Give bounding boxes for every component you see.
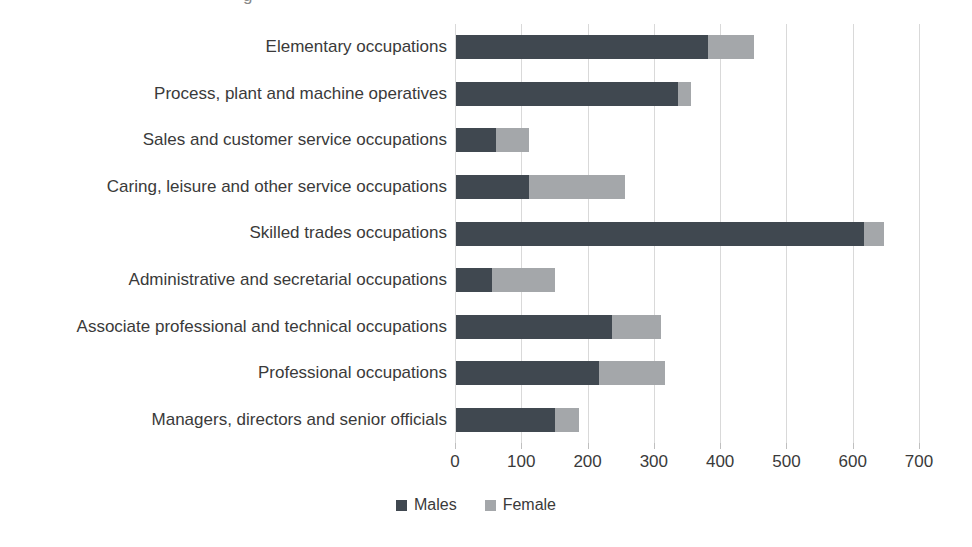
bar-segment-female [612,315,662,339]
legend-label: Female [503,496,556,514]
bar-segment-males [456,82,678,106]
axis-tick [654,443,655,449]
bar-row [456,35,754,59]
bar-row [456,82,691,106]
category-axis: Elementary occupationsProcess, plant and… [0,24,447,443]
axis-tick-label: 600 [823,452,883,472]
bar-segment-males [456,268,492,292]
bar-segment-males [456,35,708,59]
legend-item-males: Males [396,496,457,514]
axis-tick-label: 700 [889,452,949,472]
bar-row [456,175,625,199]
category-label: Sales and customer service occupations [0,117,447,164]
axis-tick [853,443,854,449]
axis-tick-label: 0 [425,452,485,472]
bar-row [456,361,665,385]
bar-segment-female [864,222,884,246]
bar-segment-males [456,128,496,152]
axis-tick [919,443,920,449]
category-label: Managers, directors and senior officials [0,396,447,443]
axis-tick [455,443,456,449]
bar-row [456,408,579,432]
bar-segment-female [529,175,625,199]
bar-segment-female [599,361,665,385]
legend-swatch-icon [485,500,496,511]
legend-item-female: Female [485,496,556,514]
bar-segment-female [708,35,754,59]
bar-row [456,222,884,246]
bar-segment-males [456,175,529,199]
axis-tick-label: 400 [690,452,750,472]
value-axis: 0100200300400500600700 [455,443,919,483]
bar-segment-males [456,408,555,432]
bar-segment-males [456,222,864,246]
axis-tick-label: 200 [558,452,618,472]
gridline [919,24,920,443]
chart-figure: g Elementary occupationsProcess, plant a… [0,0,972,547]
category-label: Associate professional and technical occ… [0,303,447,350]
axis-tick-label: 300 [624,452,684,472]
axis-tick [588,443,589,449]
bar-segment-female [492,268,555,292]
axis-tick [521,443,522,449]
axis-tick-label: 100 [491,452,551,472]
axis-tick [720,443,721,449]
cropped-caption-fragment: g [243,0,269,7]
category-label: Elementary occupations [0,24,447,71]
legend-label: Males [414,496,457,514]
axis-tick-label: 500 [756,452,816,472]
category-label: Process, plant and machine operatives [0,71,447,118]
bar-segment-female [496,128,529,152]
bar-segment-males [456,361,599,385]
axis-tick [786,443,787,449]
bar-segment-female [678,82,691,106]
plot-area [455,24,919,443]
category-label: Administrative and secretarial occupatio… [0,257,447,304]
bar-row [456,268,555,292]
category-label: Caring, leisure and other service occupa… [0,164,447,211]
bar-segment-males [456,315,612,339]
legend-swatch-icon [396,500,407,511]
category-label: Skilled trades occupations [0,210,447,257]
bar-segment-female [555,408,578,432]
bar-row [456,128,529,152]
legend: MalesFemale [0,496,952,514]
category-label: Professional occupations [0,350,447,397]
bar-row [456,315,661,339]
